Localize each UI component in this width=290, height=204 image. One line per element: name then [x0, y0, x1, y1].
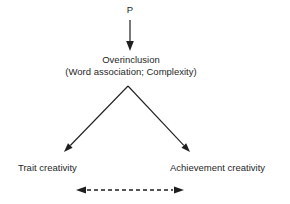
- edge-trait-achievement-dashed: [76, 187, 184, 194]
- edge-overinclusion-to-trait-line: [70, 86, 128, 146]
- node-predictor-label: P: [127, 4, 133, 16]
- edge-trait-achievement-right-arrowhead: [174, 187, 184, 194]
- edge-overinclusion-to-trait: [64, 86, 128, 152]
- node-achievement-creativity-label: Achievement creativity: [170, 162, 265, 174]
- edge-overinclusion-to-achievement: [128, 86, 190, 152]
- node-trait-creativity-label: Trait creativity: [18, 162, 77, 174]
- node-overinclusion-sublabel: (Word association; Complexity): [65, 66, 196, 78]
- node-overinclusion-label: Overinclusion: [65, 54, 196, 66]
- node-overinclusion: Overinclusion (Word association; Complex…: [65, 54, 196, 78]
- edge-overinclusion-to-achievement-line: [128, 86, 184, 145]
- edge-p-to-overinclusion-arrowhead: [126, 41, 134, 51]
- edge-trait-achievement-left-arrowhead: [76, 187, 86, 194]
- edge-p-to-overinclusion: [126, 20, 134, 51]
- path-diagram: P Overinclusion (Word association; Compl…: [0, 0, 290, 204]
